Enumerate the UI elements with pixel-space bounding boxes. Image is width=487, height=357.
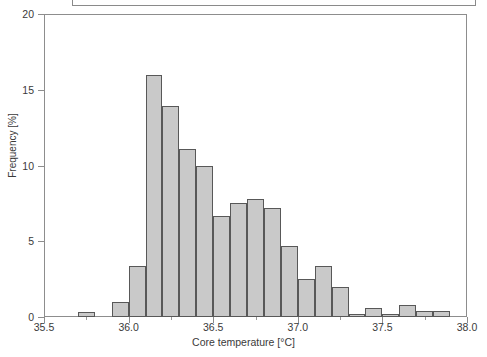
histogram-bar (112, 302, 129, 317)
x-tick-mark (298, 317, 299, 323)
histogram-bar (146, 75, 163, 317)
x-tick-label: 38.0 (441, 321, 487, 333)
histogram-bar (365, 308, 382, 317)
histogram-bar (382, 314, 399, 317)
histogram-bar (213, 216, 230, 318)
x-tick-mark (467, 317, 468, 323)
histogram-bar (315, 266, 332, 318)
histogram-bar (196, 166, 213, 318)
histogram-bar (433, 311, 450, 317)
histogram-bar (399, 305, 416, 317)
histogram-bar (129, 266, 146, 318)
title-box (72, 0, 476, 6)
y-tick-mark (38, 90, 44, 91)
histogram-bar (332, 287, 349, 317)
histogram-bar (179, 149, 196, 317)
x-tick-mark (382, 317, 383, 323)
x-tick-mark (213, 317, 214, 323)
histogram-bar (162, 106, 179, 317)
x-tick-mark (129, 317, 130, 323)
x-axis-title: Core temperature [°C] (0, 336, 487, 348)
histogram-bar (230, 203, 247, 317)
histogram-plot-area (44, 14, 467, 317)
x-tick-mark (44, 317, 45, 323)
y-tick-mark (38, 241, 44, 242)
histogram-bar (247, 199, 264, 317)
x-tick-minor-mark (256, 317, 257, 320)
y-tick-mark (38, 14, 44, 15)
x-tick-minor-mark (340, 317, 341, 320)
histogram-bar (281, 246, 298, 317)
histogram-bar (349, 314, 366, 317)
histogram-bar (264, 208, 281, 317)
y-tick-label: 20 (0, 9, 34, 19)
histogram-bar (298, 279, 315, 317)
y-axis-title: Frequency [%] (7, 86, 18, 206)
x-tick-minor-mark (86, 317, 87, 320)
x-tick-minor-mark (425, 317, 426, 320)
x-tick-minor-mark (171, 317, 172, 320)
y-tick-mark (38, 166, 44, 167)
y-tick-label: 5 (0, 236, 34, 246)
